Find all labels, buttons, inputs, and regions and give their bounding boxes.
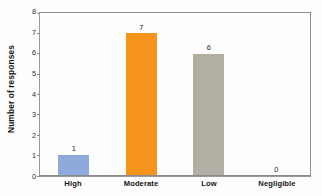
y-axis-tick-mark [37, 135, 40, 136]
bar-value-label: 6 [207, 44, 211, 51]
bar-value-label: 0 [274, 166, 278, 173]
y-axis-tick-label: 0 [32, 173, 36, 180]
plot-area: 1760 [39, 12, 311, 177]
y-axis-tick-mark [37, 33, 40, 34]
x-axis-label-moderate: Moderate [107, 179, 175, 188]
bar-value-label: 1 [72, 145, 76, 152]
y-axis-tick-mark [37, 74, 40, 75]
y-axis-tick-label: 5 [32, 70, 36, 77]
bar-low[interactable]: 6 [193, 54, 224, 176]
bar-high[interactable]: 1 [58, 155, 89, 175]
y-axis-tick-mark [37, 176, 40, 177]
y-axis-tick-label: 3 [32, 111, 36, 118]
bar-moderate[interactable]: 7 [126, 33, 157, 175]
bar-chart-figure: Number of responses 012345678 1760 HighM… [0, 0, 322, 196]
x-axis-label-high: High [39, 179, 107, 188]
y-axis-tick-label: 2 [32, 132, 36, 139]
y-axis-tick-mark [37, 114, 40, 115]
y-axis-title-text: Number of responses [6, 45, 16, 133]
bars-layer: 1760 [40, 13, 310, 175]
bar-slot: 6 [175, 13, 243, 175]
y-axis-tick-mark [37, 155, 40, 156]
y-axis-tick-mark [37, 13, 40, 14]
y-axis-tick-labels: 012345678 [20, 12, 36, 177]
bar-slot: 1 [40, 13, 108, 175]
bar-slot: 7 [108, 13, 176, 175]
y-axis-tick-mark [37, 53, 40, 54]
y-axis-tick-label: 7 [32, 29, 36, 36]
y-axis-tick-label: 4 [32, 91, 36, 98]
bar-slot: 0 [243, 13, 311, 175]
y-axis-tick-mark [37, 94, 40, 95]
x-axis-category-labels: HighModerateLowNegligible [39, 179, 311, 188]
y-axis-tick-label: 8 [32, 8, 36, 15]
x-axis-label-low: Low [175, 179, 243, 188]
x-axis-baseline [40, 175, 310, 176]
y-axis-title: Number of responses [2, 0, 20, 178]
y-axis-tick-label: 6 [32, 50, 36, 57]
y-axis-tick-label: 1 [32, 153, 36, 160]
bar-value-label: 7 [139, 24, 143, 31]
x-axis-label-negligible: Negligible [243, 179, 311, 188]
